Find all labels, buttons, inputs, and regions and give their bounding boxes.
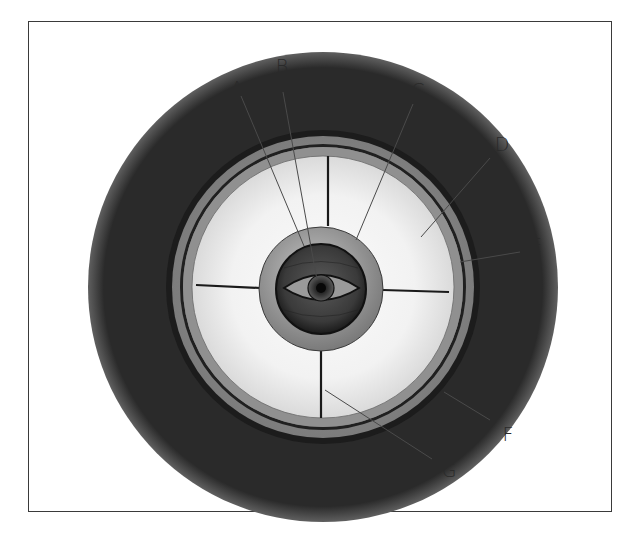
leader-F bbox=[444, 392, 490, 420]
label-B: B bbox=[276, 57, 288, 76]
label-D: D bbox=[495, 135, 510, 154]
label-F: F bbox=[503, 425, 514, 444]
pupil bbox=[316, 283, 326, 293]
label-E: E bbox=[530, 236, 542, 255]
cross-section-diagram bbox=[0, 0, 641, 536]
label-G: G bbox=[442, 461, 457, 480]
label-A: A bbox=[231, 79, 244, 98]
label-C: C bbox=[411, 81, 424, 100]
